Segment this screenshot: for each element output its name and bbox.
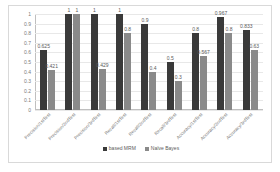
bar-wrapper: 0.567 bbox=[200, 14, 207, 110]
bar bbox=[200, 56, 207, 110]
bar-wrapper: 0.429 bbox=[99, 14, 106, 110]
bar bbox=[65, 14, 72, 110]
bar-value-label: 1 bbox=[68, 8, 71, 13]
bar-wrapper: 0.4 bbox=[149, 14, 156, 110]
bar-group: 11 bbox=[60, 14, 85, 110]
bar-wrapper: 0.833 bbox=[243, 14, 250, 110]
bar bbox=[40, 50, 47, 110]
bar-wrapper: 0.8 bbox=[124, 14, 131, 110]
y-axis-tick-label: 0.8 bbox=[24, 31, 31, 36]
legend-label: Naïve Bayes bbox=[151, 146, 179, 151]
bar bbox=[251, 50, 258, 110]
bar-value-label: 0.429 bbox=[96, 63, 109, 68]
legend-swatch-icon bbox=[145, 147, 149, 151]
chart-container: 10.90.80.70.60.50.40.30.20.10 0.6250.421… bbox=[8, 5, 272, 163]
y-axis-tick-label: 0 bbox=[28, 108, 31, 113]
bar-wrapper: 0.9 bbox=[141, 14, 148, 110]
bar bbox=[48, 70, 55, 110]
bar-value-label: 0.567 bbox=[197, 50, 210, 55]
bar-value-label: 0.421 bbox=[45, 64, 58, 69]
bar-value-label: 0.9 bbox=[141, 18, 148, 23]
y-axis-tick-label: 0.3 bbox=[24, 79, 31, 84]
bar-wrapper: 0.3 bbox=[175, 14, 182, 110]
y-axis-tick-label: 0.6 bbox=[24, 50, 31, 55]
bar-group: 10.429 bbox=[86, 14, 111, 110]
bar-value-label: 1 bbox=[76, 8, 79, 13]
x-axis: Precision/1stTestPrecision/2ndTestPrecis… bbox=[35, 110, 263, 150]
y-axis-tick-label: 0.2 bbox=[24, 88, 31, 93]
bar-value-label: 0.3 bbox=[175, 75, 182, 80]
bar-group: 10.8 bbox=[111, 14, 136, 110]
legend-swatch-icon bbox=[103, 147, 107, 151]
y-axis-tick-label: 0.4 bbox=[24, 69, 31, 74]
bar-wrapper: 0.8 bbox=[225, 14, 232, 110]
bar bbox=[217, 17, 224, 110]
bar-value-label: 1 bbox=[118, 8, 121, 13]
bar bbox=[225, 33, 232, 110]
chart-legend: based MRMNaïve Bayes bbox=[9, 146, 273, 151]
bars-layer: 0.6250.4211110.42910.80.90.40.50.30.80.5… bbox=[35, 14, 263, 110]
bar-group: 0.50.3 bbox=[162, 14, 187, 110]
y-axis-tick-label: 0.5 bbox=[24, 60, 31, 65]
legend-label: based MRM bbox=[109, 146, 136, 151]
bar-wrapper: 0.8 bbox=[192, 14, 199, 110]
bar-value-label: 0.8 bbox=[124, 27, 131, 32]
bar-value-label: 0.8 bbox=[225, 27, 232, 32]
bar bbox=[124, 33, 131, 110]
bar bbox=[73, 14, 80, 110]
bar-wrapper: 1 bbox=[116, 14, 123, 110]
bar-wrapper: 0.63 bbox=[251, 14, 258, 110]
bar bbox=[116, 14, 123, 110]
bar-value-label: 0.4 bbox=[149, 66, 156, 71]
bar-wrapper: 1 bbox=[65, 14, 72, 110]
bar-group: 0.6250.421 bbox=[35, 14, 60, 110]
bar-value-label: 1 bbox=[93, 8, 96, 13]
bar bbox=[99, 69, 106, 110]
y-axis-tick-label: 0.9 bbox=[24, 21, 31, 26]
bar-group: 0.8330.63 bbox=[238, 14, 263, 110]
bar-group: 0.90.4 bbox=[136, 14, 161, 110]
x-axis-slot: Accuracy/3rdTest bbox=[238, 110, 263, 150]
bar-value-label: 0.8 bbox=[192, 27, 199, 32]
bar-group: 0.80.567 bbox=[187, 14, 212, 110]
bar bbox=[141, 24, 148, 110]
legend-entry[interactable]: Naïve Bayes bbox=[145, 146, 179, 151]
bar bbox=[192, 33, 199, 110]
x-axis-tick-label: Precision/1stTest bbox=[23, 112, 51, 140]
bar-value-label: 0.63 bbox=[249, 44, 259, 49]
y-axis: 10.90.80.70.60.50.40.30.20.10 bbox=[11, 14, 33, 110]
bar-wrapper: 0.967 bbox=[217, 14, 224, 110]
y-axis-tick-label: 1 bbox=[28, 12, 31, 17]
bar bbox=[167, 62, 174, 110]
bar bbox=[149, 72, 156, 110]
y-axis-tick-label: 0.7 bbox=[24, 40, 31, 45]
bar bbox=[175, 81, 182, 110]
bar-group: 0.9670.8 bbox=[212, 14, 237, 110]
bar-wrapper: 0.5 bbox=[167, 14, 174, 110]
bar-wrapper: 0.421 bbox=[48, 14, 55, 110]
bar-value-label: 0.5 bbox=[167, 56, 174, 61]
legend-entry[interactable]: based MRM bbox=[103, 146, 136, 151]
bar-wrapper: 1 bbox=[73, 14, 80, 110]
y-axis-tick-label: 0.1 bbox=[24, 98, 31, 103]
